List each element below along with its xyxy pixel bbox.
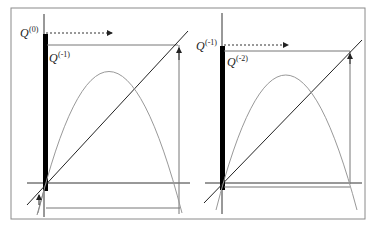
- right-parabola: [216, 75, 357, 210]
- left-parabola: [38, 72, 182, 214]
- panel-left: Q (0) Q (-1): [20, 14, 190, 217]
- left-label-top-sup: (0): [29, 25, 39, 34]
- left-quota-bar: [43, 34, 48, 191]
- left-label-top: Q: [20, 26, 29, 40]
- left-label-inner-sup: (-1): [58, 50, 70, 59]
- left-label-inner: Q: [49, 51, 58, 65]
- right-label-inner-sup: (-2): [236, 54, 248, 63]
- right-label-inner: Q: [227, 55, 236, 69]
- right-label-top: Q: [196, 39, 205, 53]
- cobweb-diagram: Q (0) Q (-1) Q (-1) Q (-2): [0, 0, 373, 227]
- right-quota-bar: [220, 46, 225, 190]
- right-label-top-sup: (-1): [205, 38, 217, 47]
- panel-right: Q (-1) Q (-2): [196, 13, 362, 214]
